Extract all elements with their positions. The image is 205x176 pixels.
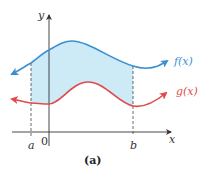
origin-label: 0 [41, 136, 48, 147]
x-axis-label: x [169, 134, 175, 145]
figure-caption: (a) [84, 155, 102, 166]
curve-g-label: g(x) [176, 86, 198, 97]
tick-label-a: a [28, 140, 35, 151]
curve-f-left [12, 63, 31, 74]
tick-label-b: b [130, 140, 137, 151]
y-axis-label: y [38, 10, 44, 21]
curve-g-left [12, 99, 31, 103]
curve-f-label: f(x) [174, 56, 193, 67]
